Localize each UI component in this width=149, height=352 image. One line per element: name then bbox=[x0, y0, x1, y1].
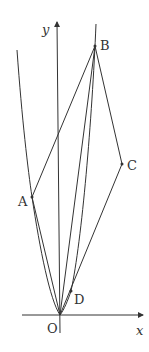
point-b bbox=[94, 45, 97, 48]
parabola-curve bbox=[17, 24, 96, 315]
point-b-label: B bbox=[100, 38, 110, 53]
point-c bbox=[121, 163, 124, 166]
y-axis bbox=[57, 22, 60, 333]
origin-label: O bbox=[47, 321, 58, 336]
point-d bbox=[70, 290, 73, 293]
y-axis-label: y bbox=[41, 22, 50, 37]
segment-ao bbox=[32, 197, 60, 315]
segment-co bbox=[60, 164, 122, 315]
x-axis-label: x bbox=[136, 323, 144, 338]
segment-bc bbox=[95, 46, 122, 164]
point-a-label: A bbox=[17, 194, 28, 209]
point-a bbox=[31, 196, 34, 199]
point-d-label: D bbox=[74, 292, 84, 307]
coordinate-diagram: y x O A B C D bbox=[0, 0, 149, 352]
segment-ob bbox=[60, 46, 95, 315]
point-c-label: C bbox=[127, 158, 137, 173]
